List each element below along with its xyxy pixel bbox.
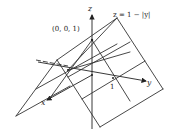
surface-diagram: z y x (0, 0, 1) z = 1 − |y| 1 xyxy=(0,0,172,139)
x-point xyxy=(67,69,69,71)
hidden-line xyxy=(36,60,68,66)
right-panel-outer-edge xyxy=(100,89,163,127)
y-axis-label: y xyxy=(146,78,152,87)
right-panel-front-slope xyxy=(57,60,100,127)
left-panel-front-edge xyxy=(16,60,57,116)
origin-point xyxy=(91,74,93,76)
right-panel-apex-slope xyxy=(92,40,130,101)
apex-label: (0, 0, 1) xyxy=(52,25,80,33)
z-axis-label: z xyxy=(87,4,92,13)
y1-point xyxy=(112,77,114,79)
surface-equation-label: z = 1 − |y| xyxy=(113,11,150,19)
left-panel-mid-line xyxy=(36,44,117,89)
apex-point xyxy=(91,39,93,41)
y-tick-label: 1 xyxy=(110,83,114,91)
right-panel-mid-line xyxy=(82,61,145,99)
